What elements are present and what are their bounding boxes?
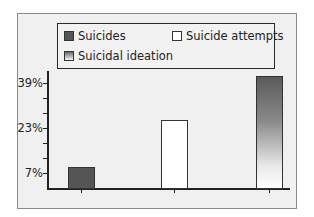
legend-label: Suicides	[78, 29, 126, 43]
y-tick-minor	[43, 98, 48, 99]
suicides-swatch-icon	[64, 31, 74, 41]
legend-item-suicides: Suicides	[64, 29, 126, 43]
y-label-23: 23%	[3, 121, 43, 135]
y-tick	[43, 173, 48, 174]
bar-suicidal-ideation	[256, 76, 283, 189]
y-tick-minor	[43, 113, 48, 114]
y-label-39: 39%	[3, 76, 43, 90]
bar-suicides	[68, 167, 95, 189]
legend-item-suicide-attempts: Suicide attempts	[172, 29, 283, 43]
chart-legend: Suicides Suicide attempts Suicidal ideat…	[57, 23, 275, 69]
bar-suicide-attempts	[161, 120, 188, 189]
suicidal-ideation-swatch-icon	[64, 51, 74, 61]
y-axis	[47, 71, 49, 189]
suicide-attempts-swatch-icon	[172, 31, 182, 41]
legend-label: Suicidal ideation	[78, 49, 173, 63]
y-tick	[43, 83, 48, 84]
x-tick	[174, 188, 175, 193]
x-tick	[81, 188, 82, 193]
y-tick	[43, 128, 48, 129]
legend-item-suicidal-ideation: Suicidal ideation	[64, 49, 173, 63]
x-tick	[269, 188, 270, 193]
legend-label: Suicide attempts	[186, 29, 283, 43]
y-tick-minor	[43, 143, 48, 144]
y-tick-minor	[43, 158, 48, 159]
y-label-7: 7%	[3, 166, 43, 180]
